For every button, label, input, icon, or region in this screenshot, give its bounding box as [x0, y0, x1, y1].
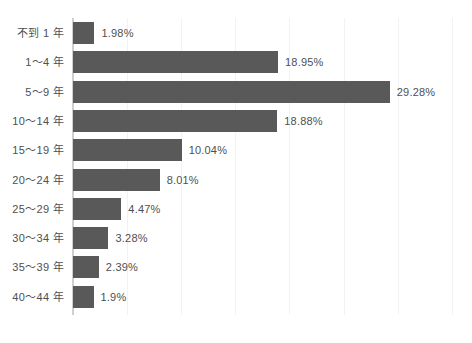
- category-label: 25～29 年: [0, 198, 64, 220]
- bar-row: 5～9 年29.28%: [0, 81, 472, 103]
- bar-row: 15～19 年10.04%: [0, 139, 472, 161]
- bar-value-label: 3.28%: [115, 227, 147, 249]
- bar-value-label: 1.9%: [101, 286, 127, 308]
- bar-rows: 不到 1 年1.98%1～4 年18.95%5～9 年29.28%10～14 年…: [0, 0, 472, 343]
- category-label: 35～39 年: [0, 256, 64, 278]
- bar-row: 10～14 年18.88%: [0, 110, 472, 132]
- bar-value-label: 18.95%: [285, 51, 324, 73]
- bar-value-label: 29.28%: [397, 81, 436, 103]
- category-label: 15～19 年: [0, 139, 64, 161]
- bar: [73, 22, 94, 44]
- bar: [73, 198, 121, 220]
- bar: [73, 256, 99, 278]
- category-label: 5～9 年: [0, 81, 64, 103]
- category-label: 30～34 年: [0, 227, 64, 249]
- bar: [73, 81, 390, 103]
- bar-row: 1～4 年18.95%: [0, 51, 472, 73]
- bar-value-label: 1.98%: [101, 22, 133, 44]
- bar-row: 30～34 年3.28%: [0, 227, 472, 249]
- bar-row: 20～24 年8.01%: [0, 169, 472, 191]
- category-label: 40～44 年: [0, 286, 64, 308]
- bar-row: 40～44 年1.9%: [0, 286, 472, 308]
- category-label: 不到 1 年: [0, 22, 64, 44]
- bar: [73, 169, 160, 191]
- bar: [73, 110, 277, 132]
- bar: [73, 227, 108, 249]
- bar: [73, 286, 94, 308]
- bar: [73, 139, 182, 161]
- bar-value-label: 10.04%: [189, 139, 228, 161]
- bar-value-label: 18.88%: [284, 110, 323, 132]
- category-label: 1～4 年: [0, 51, 64, 73]
- bar-chart: 不到 1 年1.98%1～4 年18.95%5～9 年29.28%10～14 年…: [0, 0, 472, 343]
- category-label: 20～24 年: [0, 169, 64, 191]
- bar-row: 不到 1 年1.98%: [0, 22, 472, 44]
- bar-row: 35～39 年2.39%: [0, 256, 472, 278]
- bar-value-label: 4.47%: [128, 198, 160, 220]
- category-label: 10～14 年: [0, 110, 64, 132]
- bar-value-label: 2.39%: [106, 256, 138, 278]
- bar-value-label: 8.01%: [167, 169, 199, 191]
- bar-row: 25～29 年4.47%: [0, 198, 472, 220]
- bar: [73, 51, 278, 73]
